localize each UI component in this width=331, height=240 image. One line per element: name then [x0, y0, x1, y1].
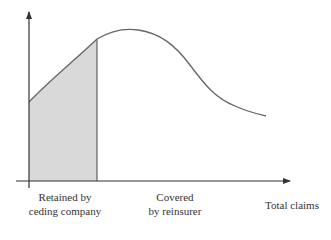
- retained-label: Retained by ceding company: [22, 190, 108, 218]
- x-axis-label: Total claims: [255, 198, 329, 212]
- covered-label: Covered by reinsurer: [140, 190, 210, 218]
- retained-label-line1: Retained by: [22, 190, 108, 204]
- retained-area: [29, 39, 97, 181]
- covered-label-line2: by reinsurer: [140, 204, 210, 218]
- retained-label-line2: ceding company: [22, 204, 108, 218]
- covered-label-line1: Covered: [140, 190, 210, 204]
